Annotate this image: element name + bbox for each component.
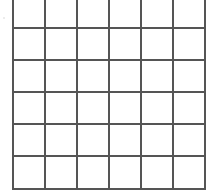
grid-horizontal-line xyxy=(12,27,206,29)
stray-dot xyxy=(3,17,5,19)
grid-horizontal-line xyxy=(12,155,206,157)
grid-horizontal-line xyxy=(12,123,206,125)
grid-horizontal-line xyxy=(12,91,206,93)
grid-canvas xyxy=(0,0,210,195)
grid-horizontal-line xyxy=(12,59,206,61)
grid-horizontal-line xyxy=(12,188,206,190)
